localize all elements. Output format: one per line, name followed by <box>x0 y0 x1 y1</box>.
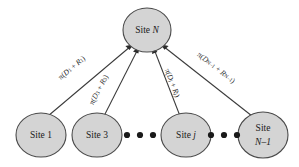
node-site-j-label: Site j <box>176 130 196 140</box>
ellipsis-left-dot-3 <box>150 132 156 138</box>
node-site-n-1-label-line2: N–1 <box>254 137 271 147</box>
edge-line-3 <box>104 49 138 116</box>
node-site-n-label: Site N <box>135 25 159 35</box>
edge-label-group-3: π(D3 + R3) <box>87 73 110 106</box>
ellipsis-left <box>124 132 156 138</box>
node-site-3[interactable]: Site 3 <box>72 113 122 157</box>
edge-label-n-1-text: π(DN–1 + RN–1) <box>196 50 238 86</box>
ellipsis-right <box>208 132 240 138</box>
edge-site-3-to-site-n <box>104 46 139 116</box>
ellipsis-right-dot-1 <box>208 132 214 138</box>
ellipsis-right-dot-3 <box>234 132 240 138</box>
ellipsis-left-dot-2 <box>137 132 143 138</box>
node-site-1[interactable]: Site 1 <box>16 113 66 157</box>
edge-label-group-n-1: π(DN–1 + RN–1) <box>196 50 238 86</box>
ellipsis-right-dot-2 <box>221 132 227 138</box>
diagram-canvas: π(D1 + R1) π(D3 + R3) π(Dj + Rj) π(DN–1 … <box>0 0 299 167</box>
edge-label-group-j: π(Dj + Rj) <box>163 67 182 99</box>
star-topology-diagram: π(D1 + R1) π(D3 + R3) π(Dj + Rj) π(DN–1 … <box>0 0 299 167</box>
node-site-j[interactable]: Site j <box>161 113 211 157</box>
node-site-3-label: Site 3 <box>86 130 108 140</box>
edge-label-1-text: π(D1 + R1) <box>56 53 87 81</box>
node-site-n-1[interactable]: Site N–1 <box>238 112 288 158</box>
node-site-1-label: Site 1 <box>30 130 52 140</box>
ellipsis-left-dot-1 <box>124 132 130 138</box>
node-site-n-1-shape <box>238 112 288 158</box>
node-site-n[interactable]: Site N <box>123 8 171 52</box>
edge-label-j-text: π(Dj + Rj) <box>163 67 182 99</box>
node-site-n-1-label-line1: Site <box>256 123 271 133</box>
edge-label-3-text: π(D3 + R3) <box>87 73 110 106</box>
edge-label-group-1: π(D1 + R1) <box>56 53 87 81</box>
